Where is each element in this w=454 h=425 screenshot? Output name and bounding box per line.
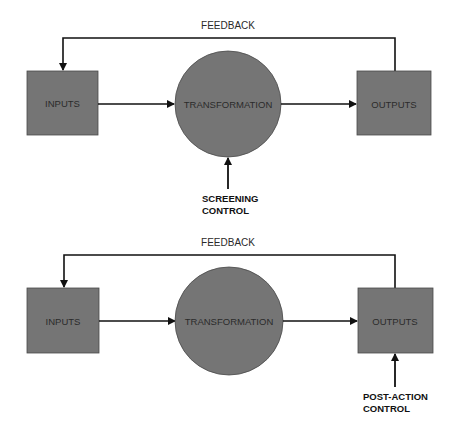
transformation-label: TRANSFORMATION	[185, 316, 274, 327]
screening-control-label-line1: SCREENING	[202, 193, 258, 204]
feedback-label: FEEDBACK	[201, 237, 255, 248]
post-action-control-diagram: FEEDBACK INPUTS TRANSFORMATION OUTPUTS P…	[27, 237, 433, 414]
inputs-label: INPUTS	[46, 316, 81, 327]
screening-control-diagram: FEEDBACK INPUTS TRANSFORMATION OUTPUTS S…	[27, 20, 431, 216]
inputs-label: INPUTS	[45, 98, 80, 109]
transformation-label: TRANSFORMATION	[184, 99, 273, 110]
screening-control-label-line2: CONTROL	[202, 205, 249, 216]
outputs-label: OUTPUTS	[371, 99, 416, 110]
feedback-label: FEEDBACK	[201, 20, 255, 31]
post-action-control-label-line1: POST-ACTION	[363, 391, 428, 402]
control-diagrams: FEEDBACK INPUTS TRANSFORMATION OUTPUTS S…	[0, 0, 454, 425]
outputs-label: OUTPUTS	[372, 316, 417, 327]
post-action-control-label-line2: CONTROL	[363, 403, 410, 414]
